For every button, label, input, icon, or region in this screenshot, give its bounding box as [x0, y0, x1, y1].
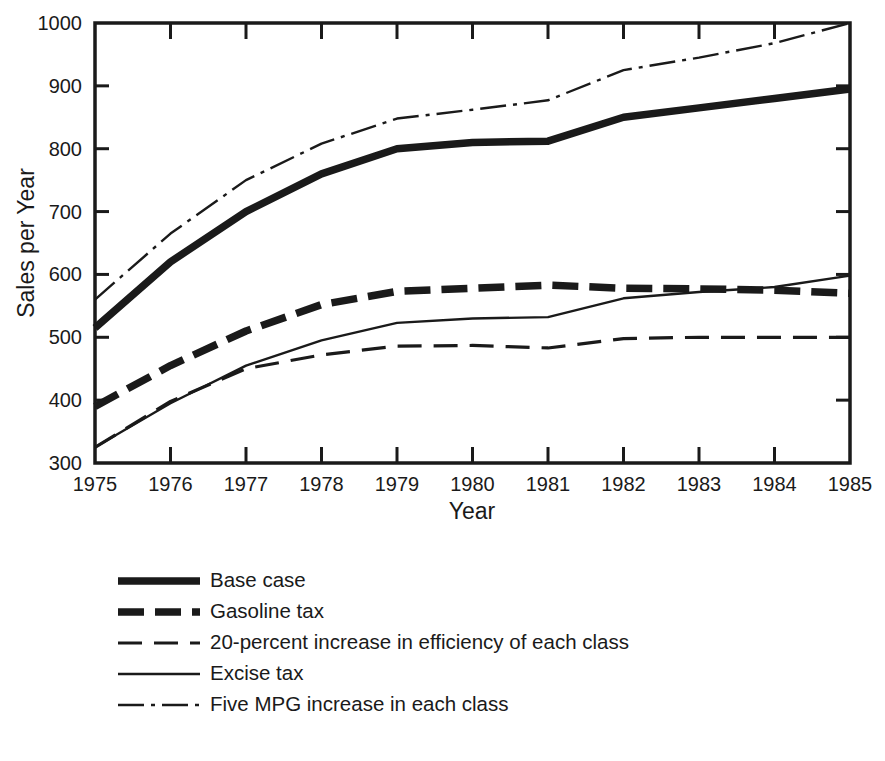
y-axis-ticks — [95, 86, 850, 400]
x-tick-label: 1984 — [752, 473, 797, 495]
series-line — [95, 89, 850, 328]
y-tick-label: 600 — [49, 263, 82, 285]
x-tick-label: 1982 — [601, 473, 646, 495]
legend-item[interactable]: Five MPG increase in each class — [118, 689, 818, 720]
legend-line-swatch — [118, 632, 200, 654]
x-axis-title: Year — [449, 498, 496, 524]
y-axis-title: Sales per Year — [13, 168, 39, 318]
legend-line-swatch — [118, 601, 200, 623]
x-tick-label: 1975 — [73, 473, 118, 495]
y-tick-label: 300 — [49, 452, 82, 474]
legend-item-label: 20-percent increase in efficiency of eac… — [210, 632, 629, 653]
y-tick-label: 500 — [49, 326, 82, 348]
series-line — [95, 276, 850, 448]
legend-item-label: Five MPG increase in each class — [210, 694, 509, 715]
y-tick-label: 700 — [49, 201, 82, 223]
x-tick-label: 1983 — [677, 473, 722, 495]
legend-line-swatch — [118, 570, 200, 592]
y-axis-tick-labels: 3004005006007008009001000 — [38, 12, 83, 474]
y-tick-label: 1000 — [38, 12, 83, 34]
x-axis-tick-labels: 1975197619771978197919801981198219831984… — [73, 473, 873, 495]
x-tick-label: 1981 — [526, 473, 571, 495]
series-line — [95, 23, 850, 300]
legend-item-label: Base case — [210, 570, 306, 591]
y-tick-label: 900 — [49, 75, 82, 97]
x-axis-ticks — [171, 23, 775, 463]
x-tick-label: 1978 — [299, 473, 344, 495]
chart-canvas: 3004005006007008009001000 19751976197719… — [0, 0, 885, 530]
x-tick-label: 1979 — [375, 473, 420, 495]
legend-item-label: Excise tax — [210, 663, 303, 684]
legend-line-swatch — [118, 694, 200, 716]
legend-line-swatch — [118, 663, 200, 685]
x-tick-label: 1980 — [450, 473, 495, 495]
y-tick-label: 800 — [49, 138, 82, 160]
data-series-group — [95, 23, 850, 447]
x-tick-label: 1976 — [148, 473, 193, 495]
x-tick-label: 1985 — [828, 473, 873, 495]
legend-item[interactable]: Base case — [118, 565, 818, 596]
series-line — [95, 337, 850, 447]
line-chart: 3004005006007008009001000 19751976197719… — [0, 0, 885, 530]
legend-item-label: Gasoline tax — [210, 601, 324, 622]
x-tick-label: 1977 — [224, 473, 269, 495]
y-tick-label: 400 — [49, 389, 82, 411]
legend-item[interactable]: Excise tax — [118, 658, 818, 689]
legend-item[interactable]: Gasoline tax — [118, 596, 818, 627]
plot-frame — [95, 23, 850, 463]
chart-legend: Base caseGasoline tax20-percent increase… — [118, 565, 818, 720]
figure-root: 3004005006007008009001000 19751976197719… — [0, 0, 885, 761]
legend-item[interactable]: 20-percent increase in efficiency of eac… — [118, 627, 818, 658]
